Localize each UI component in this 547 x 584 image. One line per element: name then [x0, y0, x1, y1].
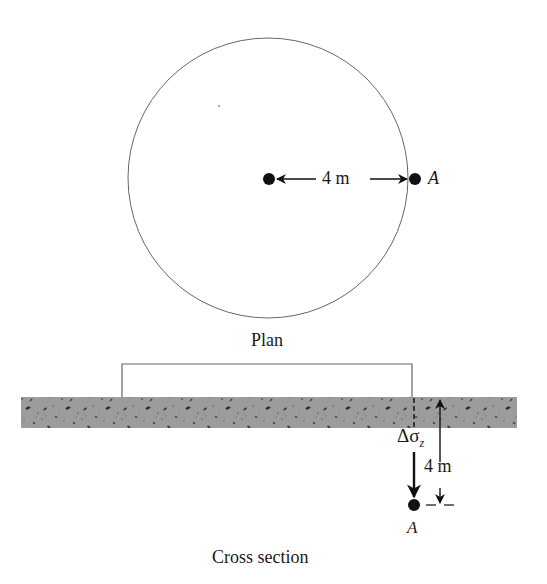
stray-dot — [218, 105, 220, 107]
stress-label-main: Δσ — [397, 425, 419, 446]
footing-outline — [122, 364, 412, 397]
point-a-section — [408, 499, 420, 511]
cross-section-view — [21, 364, 517, 511]
point-a-plan — [409, 173, 421, 185]
stress-label-subscript: z — [419, 436, 424, 450]
plan-dimension-label: 4 m — [322, 168, 350, 189]
depth-label: 4 m — [424, 456, 452, 477]
soil-layer — [21, 397, 517, 428]
stress-increment-label: Δσz — [397, 425, 424, 451]
section-point-a-label: A — [407, 518, 417, 538]
plan-point-a-label: A — [428, 168, 439, 189]
cross-section-caption: Cross section — [212, 547, 309, 568]
footing-center-point — [263, 173, 275, 185]
plan-view — [128, 38, 421, 318]
plan-caption: Plan — [251, 330, 283, 351]
diagram-canvas — [0, 0, 547, 584]
